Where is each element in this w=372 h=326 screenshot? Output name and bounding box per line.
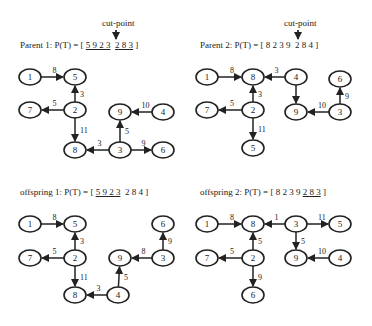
- edge-weight: 11: [80, 126, 88, 135]
- node-label: 9: [294, 253, 299, 263]
- edge-weight: 5: [230, 247, 234, 256]
- node-label: 5: [338, 219, 343, 229]
- edge-weight: 3: [258, 90, 262, 99]
- edge-weight: 8: [53, 66, 57, 75]
- edge-weight: 5: [258, 237, 262, 246]
- node-label: 1: [205, 72, 210, 82]
- node-label: 4: [294, 72, 299, 82]
- node-label: 5: [251, 143, 256, 153]
- parent2-graph: 833511109184672935: [196, 66, 351, 156]
- node-label: 3: [161, 253, 166, 263]
- edge-weight: 5: [125, 127, 129, 136]
- node-label: 8: [73, 145, 78, 155]
- node-label: 4: [161, 107, 166, 117]
- edge-weight: 8: [230, 66, 234, 75]
- edge-weight: 9: [345, 92, 349, 101]
- edge-weight: 5: [124, 273, 128, 282]
- offspring1-graph: 835118953156729384: [19, 213, 174, 303]
- offspring2-graph: 8111555910183572946: [196, 213, 351, 303]
- edge-weight: 5: [53, 247, 57, 256]
- node-label: 3: [118, 145, 123, 155]
- edge-weight: 10: [318, 247, 326, 256]
- edge-weight: 3: [275, 66, 279, 75]
- edge-weight: 11: [80, 273, 88, 282]
- node-label: 2: [251, 105, 256, 115]
- edge-weight: 3: [80, 90, 84, 99]
- node-label: 6: [161, 145, 166, 155]
- edge-weight: 9: [258, 273, 262, 282]
- parent1-graph: 8351110539157294836: [19, 66, 174, 158]
- edge-weight: 5: [230, 99, 234, 108]
- node-label: 1: [28, 219, 33, 229]
- edge-weight: 5: [53, 99, 57, 108]
- edge-weight: 8: [53, 213, 57, 222]
- node-label: 7: [28, 253, 33, 263]
- node-label: 8: [251, 219, 256, 229]
- edge-weight: 1: [275, 213, 279, 222]
- edge-weight: 8: [142, 247, 146, 256]
- edge-weight: 8: [230, 213, 234, 222]
- node-label: 6: [251, 290, 256, 300]
- edge-weight: 9: [168, 237, 172, 246]
- node-label: 8: [251, 72, 256, 82]
- node-label: 7: [28, 105, 33, 115]
- node-label: 9: [118, 253, 123, 263]
- node-label: 3: [338, 107, 343, 117]
- node-label: 6: [161, 219, 166, 229]
- node-label: 9: [118, 107, 123, 117]
- node-label: 4: [338, 253, 343, 263]
- edge-weight: 11: [258, 125, 266, 134]
- node-label: 5: [73, 72, 78, 82]
- node-label: 9: [294, 107, 299, 117]
- node-label: 4: [116, 290, 121, 300]
- node-label: 6: [338, 74, 343, 84]
- node-label: 1: [28, 72, 33, 82]
- node-label: 3: [294, 219, 299, 229]
- edge-weight: 3: [98, 139, 102, 148]
- edge-weight: 3: [97, 284, 101, 293]
- edge-weight: 3: [80, 237, 84, 246]
- node-label: 2: [73, 105, 78, 115]
- node-label: 2: [251, 253, 256, 263]
- node-label: 7: [205, 253, 210, 263]
- edge-weight: 5: [301, 237, 305, 246]
- node-label: 7: [205, 105, 210, 115]
- node-label: 5: [73, 219, 78, 229]
- edge-weight: 10: [318, 101, 326, 110]
- edge-weight: 11: [318, 213, 326, 222]
- edge-weight: 9: [142, 139, 146, 148]
- node-label: 8: [73, 290, 78, 300]
- edge-weight: 10: [142, 101, 150, 110]
- edge-4-9: [118, 267, 119, 287]
- node-label: 2: [73, 253, 78, 263]
- tree-diagrams: 8351110539157294836833511109184672935835…: [0, 0, 372, 326]
- node-label: 1: [205, 219, 210, 229]
